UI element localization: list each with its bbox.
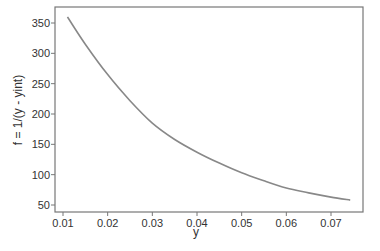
x-tick-label: 0.01 (52, 217, 73, 229)
y-tick-label: 300 (32, 47, 50, 59)
x-tick-label: 0.02 (97, 217, 118, 229)
x-tick-label: 0.06 (276, 217, 297, 229)
line-chart: 50100150200250300350 0.010.020.030.040.0… (0, 0, 380, 251)
x-tick-label: 0.03 (142, 217, 163, 229)
data-line (68, 17, 351, 200)
y-tick-label: 200 (32, 108, 50, 120)
x-tick-label: 0.07 (320, 217, 341, 229)
y-tick-label: 350 (32, 17, 50, 29)
y-tick-label: 250 (32, 78, 50, 90)
x-tick-label: 0.05 (231, 217, 252, 229)
y-tick-label: 150 (32, 138, 50, 150)
x-axis-label: y (193, 225, 199, 239)
plot-frame (55, 7, 363, 212)
y-tick-label: 100 (32, 169, 50, 181)
y-axis-label: f = 1/(y - yint) (11, 75, 25, 145)
y-axis-ticks: 50100150200250300350 (32, 17, 55, 211)
y-tick-label: 50 (38, 199, 50, 211)
